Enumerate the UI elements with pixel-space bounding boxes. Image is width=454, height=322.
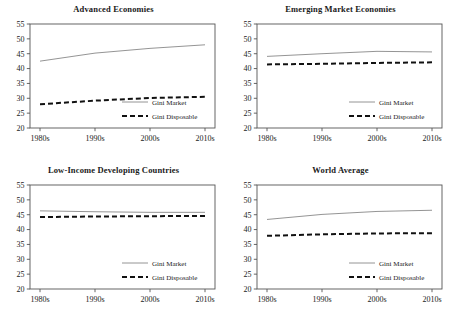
x-axis-tick-label: 1980s: [257, 134, 276, 143]
series-line-gini-market: [40, 45, 205, 61]
x-axis-tick-label: 2000s: [140, 134, 159, 143]
legend-label: Gini Market: [152, 260, 186, 268]
chart-panel: World Average20253035404550551980s1990s2…: [227, 161, 454, 322]
legend-label: Gini Disposable: [152, 113, 197, 121]
y-axis-tick-label: 45: [244, 50, 252, 59]
legend-label: Gini Disposable: [379, 113, 424, 121]
x-axis-tick-label: 2010s: [195, 295, 214, 304]
plot-area: 20253035404550551980s1990s2000s2010sGini…: [0, 161, 227, 322]
chart-panel: Emerging Market Economies202530354045505…: [227, 0, 454, 161]
y-axis-tick-label: 20: [244, 285, 252, 294]
legend-label: Gini Disposable: [379, 274, 424, 282]
y-axis-tick-label: 55: [244, 181, 252, 190]
chart-figure: Advanced Economies20253035404550551980s1…: [0, 0, 454, 322]
y-axis-tick-label: 45: [17, 50, 25, 59]
y-axis-tick-label: 35: [17, 240, 25, 249]
series-line-gini-disposable: [267, 62, 432, 64]
y-axis-tick-label: 35: [244, 79, 252, 88]
y-axis-tick-label: 55: [17, 181, 25, 190]
plot-area: 20253035404550551980s1990s2000s2010sGini…: [227, 0, 454, 161]
y-axis-tick-label: 50: [17, 35, 25, 44]
y-axis-tick-label: 30: [17, 94, 25, 103]
y-axis-tick-label: 45: [17, 211, 25, 220]
y-axis-tick-label: 25: [244, 109, 252, 118]
x-axis-tick-label: 2000s: [367, 295, 386, 304]
y-axis-tick-label: 25: [244, 270, 252, 279]
series-line-gini-market: [40, 211, 205, 212]
legend-label: Gini Market: [379, 260, 413, 268]
y-axis-tick-label: 30: [244, 94, 252, 103]
legend-label: Gini Market: [152, 99, 186, 107]
y-axis-tick-label: 50: [244, 196, 252, 205]
y-axis-tick-label: 30: [17, 255, 25, 264]
y-axis-tick-label: 35: [244, 240, 252, 249]
y-axis-tick-label: 40: [244, 225, 252, 234]
x-axis-tick-label: 1980s: [257, 295, 276, 304]
chart-panel: Low-Income Developing Countries202530354…: [0, 161, 227, 322]
x-axis-tick-label: 2000s: [367, 134, 386, 143]
y-axis-tick-label: 50: [244, 35, 252, 44]
x-axis-tick-label: 1990s: [312, 134, 331, 143]
legend-label: Gini Disposable: [152, 274, 197, 282]
y-axis-tick-label: 35: [17, 79, 25, 88]
plot-area: 20253035404550551980s1990s2000s2010sGini…: [0, 0, 227, 161]
y-axis-tick-label: 50: [17, 196, 25, 205]
x-axis-tick-label: 1980s: [30, 295, 49, 304]
y-axis-tick-label: 45: [244, 211, 252, 220]
x-axis-tick-label: 1990s: [85, 134, 104, 143]
y-axis-tick-label: 40: [17, 64, 25, 73]
y-axis-tick-label: 20: [17, 124, 25, 133]
y-axis-tick-label: 20: [244, 124, 252, 133]
y-axis-tick-label: 40: [244, 64, 252, 73]
series-line-gini-disposable: [40, 216, 205, 217]
x-axis-tick-label: 2010s: [422, 295, 441, 304]
y-axis-tick-label: 40: [17, 225, 25, 234]
plot-area: 20253035404550551980s1990s2000s2010sGini…: [227, 161, 454, 322]
y-axis-tick-label: 25: [17, 270, 25, 279]
y-axis-tick-label: 25: [17, 109, 25, 118]
series-line-gini-market: [267, 210, 432, 219]
y-axis-tick-label: 55: [17, 20, 25, 29]
y-axis-tick-label: 55: [244, 20, 252, 29]
y-axis-tick-label: 20: [17, 285, 25, 294]
legend-label: Gini Market: [379, 99, 413, 107]
series-line-gini-market: [267, 51, 432, 56]
x-axis-tick-label: 1980s: [30, 134, 49, 143]
x-axis-tick-label: 2010s: [422, 134, 441, 143]
x-axis-tick-label: 2010s: [195, 134, 214, 143]
chart-panel: Advanced Economies20253035404550551980s1…: [0, 0, 227, 161]
series-line-gini-disposable: [267, 233, 432, 236]
x-axis-tick-label: 2000s: [140, 295, 159, 304]
y-axis-tick-label: 30: [244, 255, 252, 264]
x-axis-tick-label: 1990s: [312, 295, 331, 304]
x-axis-tick-label: 1990s: [85, 295, 104, 304]
